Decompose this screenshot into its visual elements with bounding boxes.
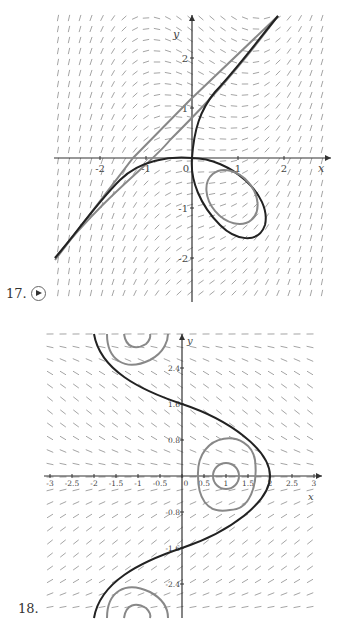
svg-text:1.5: 1.5 <box>242 479 254 488</box>
svg-text:-0.8: -0.8 <box>166 508 181 517</box>
svg-text:0: 0 <box>183 163 189 174</box>
svg-text:-3: -3 <box>46 479 54 488</box>
svg-text:1: 1 <box>224 479 229 488</box>
play-icon[interactable] <box>31 286 46 301</box>
svg-text:2.4: 2.4 <box>168 364 180 373</box>
svg-text:x: x <box>318 162 325 175</box>
svg-text:-1.5: -1.5 <box>109 479 124 488</box>
svg-text:-2.5: -2.5 <box>65 479 80 488</box>
svg-text:y: y <box>186 335 193 346</box>
svg-text:x: x <box>308 491 314 502</box>
svg-text:-2: -2 <box>95 163 105 174</box>
svg-text:-2: -2 <box>90 479 98 488</box>
chart-18: -3-2.5-2-1.5-1-0.500.511.522.532.41.60.8… <box>0 310 337 623</box>
svg-text:3: 3 <box>312 479 317 488</box>
svg-text:0.5: 0.5 <box>198 479 210 488</box>
svg-text:-1: -1 <box>178 203 188 214</box>
svg-text:-2: -2 <box>178 253 188 264</box>
svg-text:2: 2 <box>281 163 287 174</box>
svg-text:y: y <box>172 28 180 41</box>
figure-number-18: 18. <box>18 601 39 616</box>
svg-text:2: 2 <box>182 53 188 64</box>
svg-text:2.5: 2.5 <box>286 479 298 488</box>
figure-number-17: 17. <box>6 286 27 301</box>
svg-text:0: 0 <box>184 479 189 488</box>
chart-17: -2-101221-1-2xy <box>0 0 337 310</box>
svg-text:-2.4: -2.4 <box>166 580 181 589</box>
svg-text:-0.5: -0.5 <box>153 479 168 488</box>
svg-text:-1: -1 <box>134 479 141 488</box>
svg-text:0.8: 0.8 <box>168 436 180 445</box>
